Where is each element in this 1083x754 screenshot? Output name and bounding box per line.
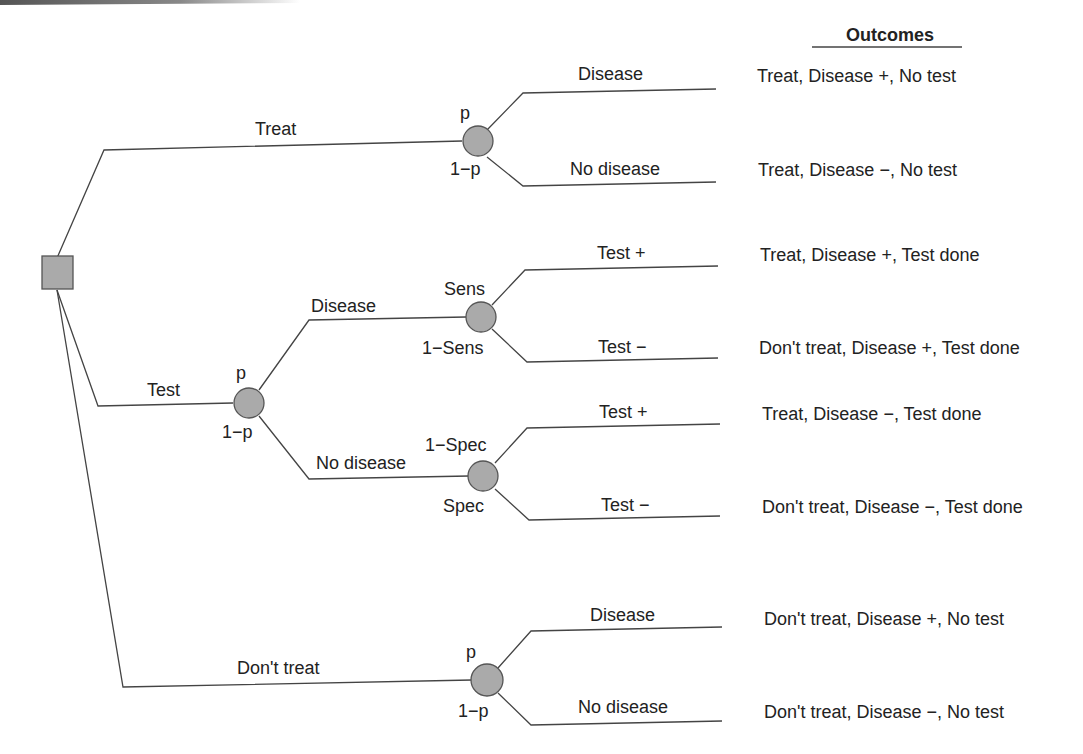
branch-label-test: Test xyxy=(147,381,180,399)
branch-label-test-neg: Test − xyxy=(601,496,650,514)
tree-lines xyxy=(0,0,1083,754)
branch-label-test-pos: Test + xyxy=(599,403,648,421)
branch-label-dont-treat: Don't treat xyxy=(237,659,319,677)
outcome-item: Treat, Disease −, Test done xyxy=(762,405,982,423)
outcome-item: Don't treat, Disease +, Test done xyxy=(759,339,1020,357)
chance-node-treat xyxy=(463,126,493,156)
decision-node-square xyxy=(42,256,73,289)
branch-label-no-disease: No disease xyxy=(316,454,406,472)
chance-node-dont-treat xyxy=(471,664,503,696)
prob-label-sens: Sens xyxy=(444,280,485,298)
edge-dt-disease xyxy=(498,627,722,668)
chance-node-spec xyxy=(468,461,498,491)
branch-label-disease: Disease xyxy=(311,297,376,315)
prob-label-spec: Spec xyxy=(443,497,484,515)
outcome-item: Don't treat, Disease −, Test done xyxy=(762,498,1023,516)
outcome-item: Treat, Disease −, No test xyxy=(758,161,957,179)
outcome-item: Don't treat, Disease −, No test xyxy=(764,703,1004,721)
edge-spec-test-pos xyxy=(495,424,720,463)
edge-treat-disease xyxy=(487,89,716,130)
branch-label-no-disease: No disease xyxy=(570,160,660,178)
prob-label-1-p: 1−p xyxy=(450,160,481,178)
outcomes-header: Outcomes xyxy=(846,26,934,44)
prob-label-1-p: 1−p xyxy=(458,702,489,720)
prob-label-p: p xyxy=(460,104,470,122)
edge-test xyxy=(57,290,233,406)
prob-label-1-spec: 1−Spec xyxy=(425,436,487,454)
edge-treat xyxy=(57,141,462,258)
prob-label-1-p: 1−p xyxy=(222,423,253,441)
branch-label-disease: Disease xyxy=(590,606,655,624)
edge-sens-test-pos xyxy=(492,266,718,305)
prob-label-p: p xyxy=(466,643,476,661)
branch-label-treat: Treat xyxy=(255,120,296,138)
chance-node-sens xyxy=(466,302,496,332)
branch-label-test-pos: Test + xyxy=(597,244,646,262)
edge-dont-treat xyxy=(57,290,472,687)
outcome-item: Treat, Disease +, Test done xyxy=(760,246,980,264)
chance-node-test xyxy=(234,388,264,418)
branch-label-no-disease: No disease xyxy=(578,698,668,716)
outcome-item: Treat, Disease +, No test xyxy=(757,67,956,85)
branch-label-test-neg: Test − xyxy=(598,338,647,356)
decision-tree: Outcomes Treat p 1−p Disease No disease … xyxy=(0,0,1083,754)
prob-label-p: p xyxy=(236,364,246,382)
prob-label-1-sens: 1−Sens xyxy=(422,339,484,357)
branch-label-disease: Disease xyxy=(578,65,643,83)
outcome-item: Don't treat, Disease +, No test xyxy=(764,610,1004,628)
